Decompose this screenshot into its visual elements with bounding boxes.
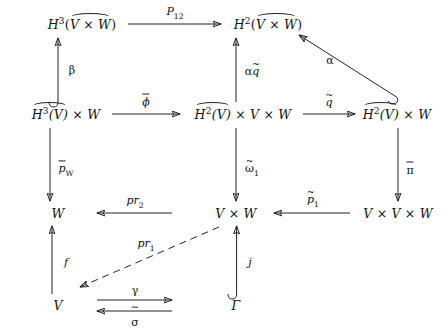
label-p1-sub: 1: [314, 200, 319, 209]
widehat-h3v: H3(V): [32, 106, 68, 122]
label-omega-sub: 1: [254, 169, 259, 178]
label-gamma-glyph: γ: [132, 284, 139, 297]
label-alpha-glyph-1: α: [245, 65, 252, 78]
label-alpha-glyph-2: α: [326, 54, 333, 67]
label-pr2-pr: pr: [126, 194, 138, 207]
label-iso-tilde: ∼: [131, 301, 139, 312]
label-omega-tilde-1: ~ω1: [245, 162, 259, 177]
label-sigma-glyph: σ: [131, 316, 139, 329]
label-j-glyph: j: [248, 256, 251, 269]
widehat-h2v-2: H2(V): [363, 106, 399, 122]
tilde-over-p: ~p: [307, 193, 314, 206]
label-pr1-pr: pr: [137, 237, 149, 250]
bar-over-phi: ϕ: [142, 96, 150, 109]
label-gamma: γ: [132, 284, 139, 297]
arrow-pr1: [80, 227, 219, 287]
label-pw-sub: W: [66, 169, 74, 178]
label-phi-glyph: ϕ: [142, 96, 150, 109]
node-w: W: [51, 206, 64, 221]
arrow-j: [228, 226, 237, 299]
node-h2-vw-h: H: [234, 17, 245, 32]
node-h3-vw-h: H: [48, 17, 59, 32]
tilde-over-q-1: ~q: [252, 65, 259, 78]
label-beta-glyph: β: [69, 64, 75, 77]
node-h2v-w-rest: × W: [399, 107, 431, 122]
label-p-tilde-1: ~p1: [307, 193, 319, 208]
label-j: j: [248, 256, 251, 269]
label-pr2-sub: 2: [139, 201, 144, 210]
node-h2-vw-hat: H2(V × W): [234, 16, 303, 32]
node-gamma: Γ: [232, 298, 241, 313]
label-pi-glyph: π: [406, 164, 413, 177]
label-pi-bar: π: [406, 164, 413, 177]
label-alpha-q: α~q: [245, 65, 259, 78]
node-h2v-hat-times-w: H2(V) × W: [363, 106, 432, 122]
arrow-alpha: [299, 35, 398, 104]
label-f: f: [64, 256, 68, 269]
label-pw-p: p: [59, 162, 66, 175]
label-pr2: pr2: [126, 194, 143, 209]
label-alpha: α: [326, 54, 333, 67]
label-beta: β: [69, 64, 75, 77]
node-v: V: [53, 298, 62, 313]
node-h2v-vw-rest: × V × W: [231, 107, 291, 122]
label-phi-bar: ϕ: [142, 96, 150, 109]
arrow-beta: [49, 38, 58, 107]
node-v-times-v-times-w: V × V × W: [363, 206, 433, 221]
node-h3v-rest: × W: [68, 107, 100, 122]
node-h3-vw-hat: H3(V × W): [48, 16, 117, 32]
widehat-vw-1: V × W: [70, 17, 111, 32]
widehat-h2v-1: H2(V): [195, 106, 231, 122]
label-p-bar-w: pW: [59, 162, 74, 177]
tilde-over-q-2: ~q: [325, 96, 332, 109]
label-p12-sub: 12: [174, 12, 184, 21]
commutative-diagram-figure: H3(V × W) H2(V × W) H3(V) × W H2(V) × V …: [0, 0, 448, 334]
label-pr1: pr1: [137, 237, 154, 252]
node-h2v-hat-times-v-times-w: H2(V) × V × W: [195, 106, 292, 122]
node-v-times-w: V × W: [215, 206, 256, 221]
bar-over-pi: π: [406, 164, 413, 177]
label-pr1-sub: 1: [150, 244, 155, 253]
widehat-vw-2: V × W: [256, 17, 297, 32]
bar-over-p-1: p: [59, 162, 66, 175]
node-h3v-hat-times-w: H3(V) × W: [32, 106, 101, 122]
label-f-glyph: f: [64, 256, 68, 269]
label-q-tilde: ~q: [325, 96, 332, 109]
label-p12: P12: [166, 5, 183, 20]
label-sigma: σ: [131, 316, 139, 329]
tilde-over-omega: ~ω: [245, 162, 254, 175]
label-iso-tilde-glyph: ∼: [131, 301, 139, 312]
